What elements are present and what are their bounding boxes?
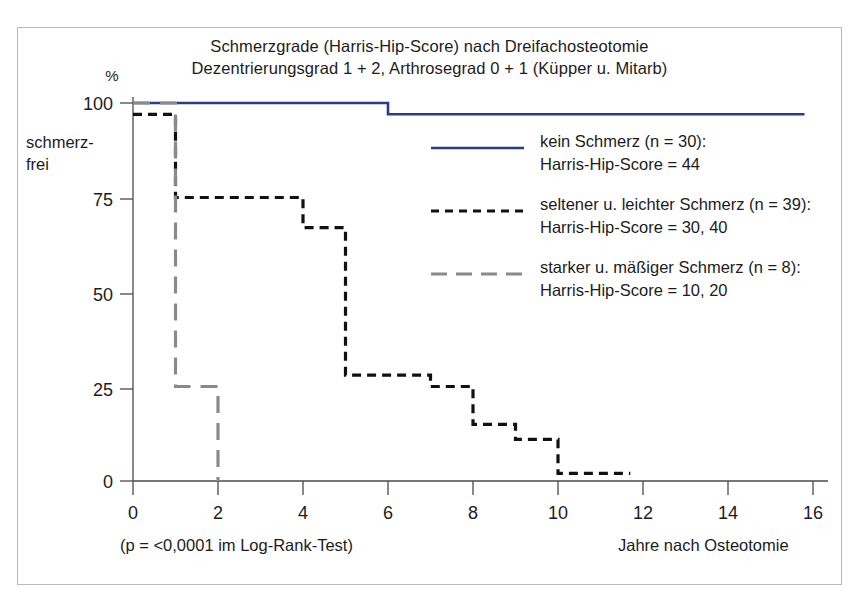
legend-label-1-line-2: Harris-Hip-Score = 44 xyxy=(540,155,700,173)
y-tick-label-0: 0 xyxy=(103,472,113,492)
x-tick-label-2: 2 xyxy=(213,503,223,523)
series-line-1 xyxy=(133,103,805,114)
y-axis-ticks: 100 75 50 25 0 xyxy=(83,94,133,492)
legend-label-2-line-2: Harris-Hip-Score = 30, 40 xyxy=(540,218,728,236)
x-axis-label: Jahre nach Osteotomie xyxy=(618,536,789,554)
x-tick-label-4: 4 xyxy=(298,503,308,523)
y-tick-label-25: 25 xyxy=(93,380,113,400)
y-axis-label-line-1: schmerz- xyxy=(26,133,94,151)
y-axis-unit-label: % xyxy=(105,67,118,84)
legend-label-2-line-1: seltener u. leichter Schmerz (n = 39): xyxy=(540,195,811,213)
y-tick-label-75: 75 xyxy=(93,190,113,210)
legend: kein Schmerz (n = 30): Harris-Hip-Score … xyxy=(431,132,811,299)
y-tick-label-100: 100 xyxy=(83,94,113,114)
p-value-annotation: (p = <0,0001 im Log-Rank-Test) xyxy=(120,536,353,554)
legend-label-3-line-2: Harris-Hip-Score = 10, 20 xyxy=(540,281,728,299)
legend-label-3-line-1: starker u. mäßiger Schmerz (n = 8): xyxy=(540,258,801,276)
x-tick-label-14: 14 xyxy=(718,503,738,523)
x-tick-label-6: 6 xyxy=(383,503,393,523)
plot-area: % schmerz- frei 100 75 50 25 0 xyxy=(0,0,859,603)
x-tick-label-0: 0 xyxy=(128,503,138,523)
x-tick-label-16: 16 xyxy=(803,503,823,523)
x-tick-label-12: 12 xyxy=(633,503,653,523)
x-tick-label-10: 10 xyxy=(548,503,568,523)
series-line-3 xyxy=(133,103,218,481)
x-axis-ticks: 0 2 4 6 8 10 12 14 16 xyxy=(128,481,823,523)
y-axis-label-line-2: frei xyxy=(26,155,49,173)
y-tick-label-50: 50 xyxy=(93,285,113,305)
legend-label-1-line-1: kein Schmerz (n = 30): xyxy=(540,132,706,150)
figure-container: Schmerzgrade (Harris-Hip-Score) nach Dre… xyxy=(0,0,859,603)
x-tick-label-8: 8 xyxy=(468,503,478,523)
